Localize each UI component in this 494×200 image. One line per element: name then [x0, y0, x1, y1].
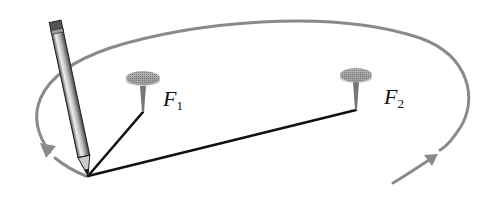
pencil-icon: [49, 20, 94, 177]
pin-f2-icon: [340, 68, 372, 110]
pin-f1-icon: [126, 71, 160, 112]
arrowhead-left-icon: [40, 143, 56, 158]
focus-subscript: 2: [397, 96, 404, 111]
arrowhead-right-icon: [424, 154, 438, 166]
string: [88, 110, 356, 176]
focus-label-f2: F2: [384, 84, 404, 112]
focus-subscript: 1: [176, 98, 183, 113]
focus-letter: F: [384, 84, 397, 109]
focus-label-f1: F1: [163, 86, 183, 114]
diagram-canvas: [0, 0, 494, 200]
ellipse-diagram: F1 F2: [0, 0, 494, 200]
focus-letter: F: [163, 86, 176, 111]
